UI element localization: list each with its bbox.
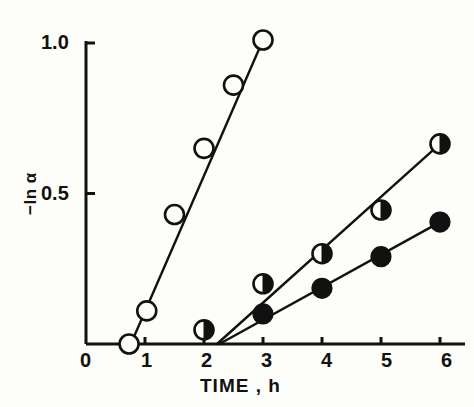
marker-half-filled-circles-2[interactable] [313, 244, 332, 263]
filled-circle-marker[interactable] [313, 279, 332, 298]
plot-canvas [0, 0, 474, 407]
x-tick-label-6: 6 [441, 350, 452, 370]
x-tick-label-3: 3 [261, 350, 272, 370]
marker-filled-circles-0[interactable] [254, 304, 273, 323]
marker-open-circles-1[interactable] [137, 301, 156, 320]
open-circle-marker[interactable] [120, 335, 139, 354]
x-tick-label-2: 2 [201, 350, 212, 370]
marker-half-filled-circles-3[interactable] [372, 201, 391, 220]
filled-circle-marker[interactable] [254, 304, 273, 323]
y-tick-label-1.0: 1.0 [41, 32, 69, 52]
open-circle-marker[interactable] [224, 76, 243, 95]
marker-filled-circles-3[interactable] [431, 213, 450, 232]
x-axis-title: TIME , h [200, 376, 281, 395]
open-circle-marker[interactable] [165, 205, 184, 224]
marker-half-filled-circles-4[interactable] [431, 134, 450, 153]
marker-open-circles-5[interactable] [254, 30, 273, 49]
marker-open-circles-4[interactable] [224, 76, 243, 95]
y-tick-label-0.5: 0.5 [41, 183, 69, 203]
filled-circle-marker[interactable] [372, 247, 391, 266]
figure-container: 1.0 0.5 0 1 2 3 4 5 6 TIME , h −ln α [0, 0, 474, 407]
x-tick-label-0: 0 [80, 350, 91, 370]
marker-open-circles-0[interactable] [120, 335, 139, 354]
x-tick-label-5: 5 [381, 350, 392, 370]
marker-open-circles-3[interactable] [195, 139, 214, 158]
open-circle-marker[interactable] [195, 139, 214, 158]
marker-half-filled-circles-0[interactable] [195, 320, 214, 339]
marker-filled-circles-1[interactable] [313, 279, 332, 298]
plot-background [0, 0, 474, 407]
marker-filled-circles-2[interactable] [372, 247, 391, 266]
filled-circle-marker[interactable] [431, 213, 450, 232]
y-axis-title: −ln α [22, 172, 39, 215]
x-tick-label-1: 1 [141, 350, 152, 370]
open-circle-marker[interactable] [254, 30, 273, 49]
marker-half-filled-circles-1[interactable] [254, 274, 273, 293]
x-tick-label-4: 4 [321, 350, 332, 370]
marker-open-circles-2[interactable] [165, 205, 184, 224]
open-circle-marker[interactable] [137, 301, 156, 320]
